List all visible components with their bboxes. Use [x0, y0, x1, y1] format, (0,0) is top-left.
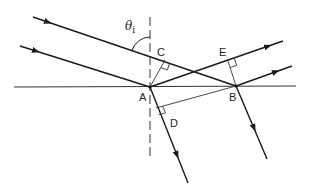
label-e: E	[219, 47, 226, 58]
label-a: A	[139, 92, 146, 103]
refracted-ray-a	[150, 87, 188, 183]
wavefront-be	[228, 61, 236, 86]
interface-line	[14, 86, 296, 87]
right-angle-e	[230, 59, 237, 68]
label-d: D	[170, 118, 178, 129]
refracted-ray-b	[236, 86, 267, 159]
theta-label: θi	[125, 20, 135, 35]
diagram-canvas: θi C E A B D	[0, 0, 309, 193]
right-angle-c	[161, 63, 170, 70]
ray-diagram	[0, 0, 309, 193]
wavefront-bd	[156, 86, 236, 108]
incident-ray-2	[20, 46, 150, 87]
label-c: C	[157, 47, 165, 58]
point-a	[148, 85, 151, 88]
label-b: B	[229, 92, 236, 103]
reflected-ray-b	[236, 66, 292, 86]
point-b	[234, 84, 237, 87]
theta-arc	[132, 37, 150, 51]
